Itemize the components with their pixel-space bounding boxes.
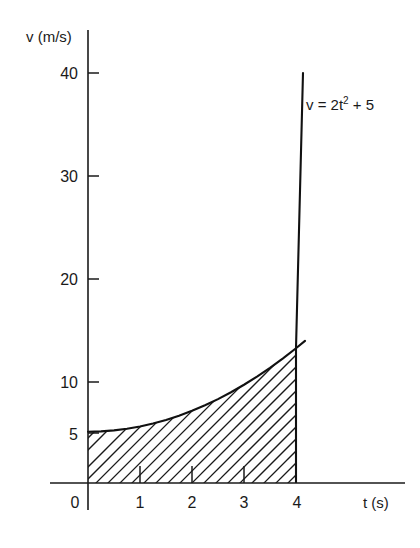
x-axis-title: t (s) — [363, 494, 389, 511]
y-tick-label-30: 30 — [60, 168, 78, 185]
curve-equation-label: v = 2t2 + 5 — [306, 95, 374, 113]
curve-equation-base: v = 2t — [306, 96, 344, 113]
x-tick-label-1: 1 — [136, 494, 145, 511]
y-axis-title: v (m/s) — [26, 28, 72, 45]
velocity-time-chart: 40 30 20 10 5 0 1 2 3 4 v (m/s) t (s) v … — [0, 0, 420, 548]
x-tick-label-4: 4 — [293, 494, 302, 511]
x-tick-label-0: 0 — [71, 494, 80, 511]
y-tick-label-10: 10 — [60, 374, 78, 391]
curve-equation-tail: + 5 — [349, 96, 374, 113]
x-tick-label-2: 2 — [188, 494, 197, 511]
y-tick-label-40: 40 — [60, 65, 78, 82]
y-tick-label-20: 20 — [60, 271, 78, 288]
y-tick-label-5: 5 — [69, 426, 78, 443]
x-tick-label-3: 3 — [240, 494, 249, 511]
